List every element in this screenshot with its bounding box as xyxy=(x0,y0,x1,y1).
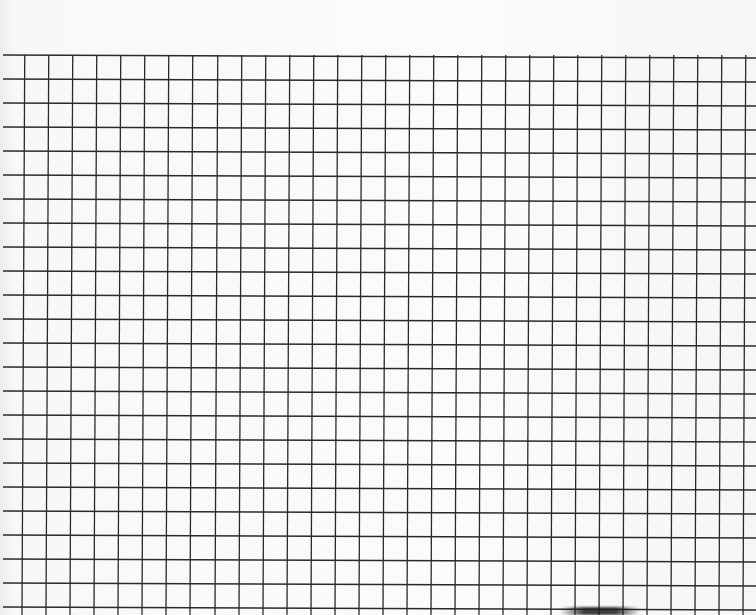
grid-vertical-line xyxy=(647,55,650,615)
grid-vertical-line xyxy=(70,55,73,615)
grid-vertical-line xyxy=(166,55,169,615)
grid-horizontal-line xyxy=(3,583,756,586)
grid-vertical-line xyxy=(359,55,362,615)
edge-shadow xyxy=(560,607,640,615)
grid-horizontal-line xyxy=(3,295,756,298)
grid-horizontal-line xyxy=(3,607,756,610)
grid-horizontal-line xyxy=(3,319,756,322)
grid-horizontal-line xyxy=(3,151,756,154)
grid-vertical-line xyxy=(239,55,242,615)
grid-vertical-line xyxy=(527,55,530,615)
grid-horizontal-line xyxy=(3,271,756,274)
grid-horizontal-line xyxy=(3,247,756,250)
grid-vertical-line xyxy=(431,55,434,615)
grid-horizontal-line xyxy=(3,367,756,370)
grid-vertical-line xyxy=(263,55,266,615)
grid-vertical-line xyxy=(575,55,578,615)
grid-vertical-line xyxy=(383,55,386,615)
grid-vertical-line xyxy=(287,55,290,615)
grid-horizontal-line xyxy=(3,415,756,418)
grid-vertical-line xyxy=(743,55,746,615)
grid-vertical-line xyxy=(335,55,338,615)
grid-horizontal-line xyxy=(3,55,756,58)
grid-vertical-line xyxy=(719,55,722,615)
grid-vertical-line xyxy=(142,55,145,615)
grid-horizontal-line xyxy=(3,343,756,346)
grid-horizontal-line xyxy=(3,127,756,130)
grid-horizontal-line xyxy=(3,439,756,442)
graph-paper-sheet xyxy=(0,0,756,615)
grid-vertical-line xyxy=(695,55,698,615)
grid-vertical-line xyxy=(503,55,506,615)
grid-horizontal-line xyxy=(3,559,756,562)
grid-horizontal-line xyxy=(3,223,756,226)
grid-horizontal-line xyxy=(3,463,756,466)
grid-vertical-line xyxy=(118,55,121,615)
grid-vertical-line xyxy=(671,55,674,615)
grid-lines xyxy=(0,0,756,615)
grid-vertical-line xyxy=(455,55,458,615)
grid-vertical-line xyxy=(551,55,554,615)
grid-horizontal-line xyxy=(3,175,756,178)
grid-horizontal-line xyxy=(3,487,756,490)
grid-vertical-line xyxy=(599,55,602,615)
grid-horizontal-line xyxy=(3,103,756,106)
grid-vertical-line xyxy=(46,55,49,615)
grid-vertical-line xyxy=(215,55,218,615)
grid-vertical-line xyxy=(311,55,314,615)
grid-vertical-line xyxy=(94,55,97,615)
grid-horizontal-line xyxy=(3,511,756,514)
grid-horizontal-line xyxy=(3,199,756,202)
grid-vertical-line xyxy=(22,55,25,615)
grid-vertical-line xyxy=(407,55,410,615)
grid-horizontal-line xyxy=(3,535,756,538)
grid-horizontal-line xyxy=(3,79,756,82)
grid-vertical-line xyxy=(623,55,626,615)
grid-vertical-line xyxy=(190,55,193,615)
grid-vertical-line xyxy=(479,55,482,615)
grid-horizontal-line xyxy=(3,391,756,394)
